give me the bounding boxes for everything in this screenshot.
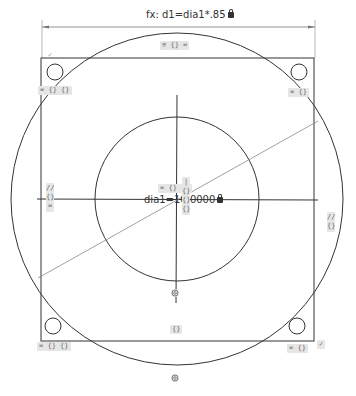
relation-tag-top-edge[interactable]: ≡ {} = <box>160 41 189 50</box>
relation-icon: {} <box>46 193 54 202</box>
dimension-d1-label[interactable]: fx: d1=dia1*.85 <box>146 9 234 20</box>
concentric-icon <box>171 289 179 297</box>
relation-tag-bottom-left-corner[interactable]: = {} {} <box>37 342 71 351</box>
check-tag-bottom-right[interactable]: ✓ <box>317 340 325 349</box>
relation-tag-top-left-corner[interactable]: = {} {} <box>38 86 72 95</box>
dim-arrow-left <box>42 26 49 29</box>
relation-icon: {} <box>182 205 190 214</box>
relation-tag-top-right-corner[interactable]: = {} <box>288 88 309 97</box>
parallel-icon: // <box>327 213 335 222</box>
dimension-d1-text: fx: d1=dia1*.85 <box>146 9 226 20</box>
corner-hole-bottom-left[interactable] <box>45 318 61 334</box>
corner-hole-top-left[interactable] <box>47 64 63 80</box>
lock-icon <box>217 197 223 203</box>
relation-icon: {} <box>182 196 190 205</box>
equal-icon: = <box>46 202 54 211</box>
lock-icon <box>228 12 234 18</box>
dimension-dia1-text: dia1=10.0000 <box>144 194 215 205</box>
concentric-icon <box>171 374 179 382</box>
relation-tag-bottom-center[interactable]: {} <box>170 325 182 334</box>
relation-tag-left-edge[interactable]: // {} = <box>46 183 54 212</box>
relation-tag-bottom-right-corner[interactable]: = {} <box>287 344 308 353</box>
vertical-icon: | <box>182 178 190 187</box>
check-tag-top-left[interactable]: ✓ <box>46 51 54 60</box>
corner-hole-bottom-right[interactable] <box>289 318 305 334</box>
corner-hole-top-right[interactable] <box>291 64 307 80</box>
dim-arrow-right <box>308 26 315 29</box>
relation-tag-center-v[interactable]: | {} {} {} <box>182 177 190 215</box>
relation-tag-right-edge[interactable]: // {} <box>327 212 335 232</box>
relation-icon: {} <box>327 222 335 231</box>
parallel-icon: // <box>46 184 54 193</box>
relation-icon: {} <box>182 187 190 196</box>
